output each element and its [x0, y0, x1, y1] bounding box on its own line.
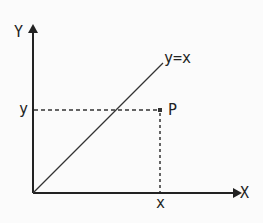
line-y-equals-x: [33, 63, 163, 193]
y-axis-arrow-icon: [28, 24, 38, 33]
point-p-marker: [158, 108, 162, 112]
line-label: y=x: [164, 51, 191, 66]
y-value-label: y: [19, 102, 28, 117]
coordinate-diagram: Y y=x y P x X: [0, 0, 263, 223]
x-axis-label: X: [240, 186, 249, 201]
diagram-graphics: [0, 0, 263, 223]
x-value-label: x: [156, 196, 165, 211]
point-label: P: [168, 103, 177, 118]
y-axis-label: Y: [14, 25, 23, 40]
